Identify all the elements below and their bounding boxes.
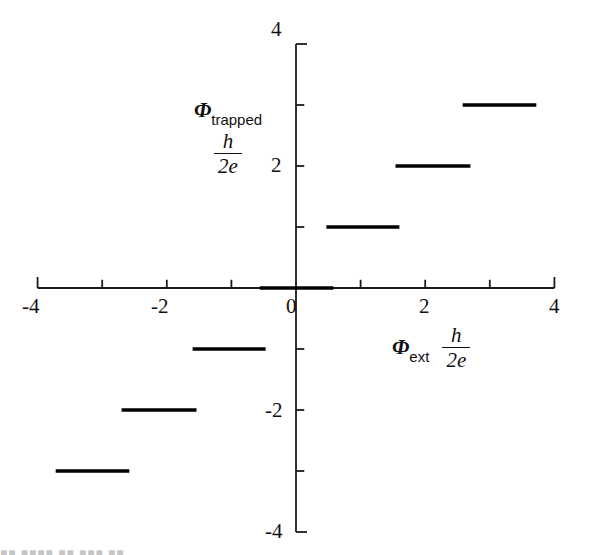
y-tick-label: 4 <box>271 19 282 40</box>
fraction-h-2e-x: h 2e <box>442 324 470 371</box>
fraction-denominator: 2e <box>214 154 242 177</box>
phi-symbol-x: Φ <box>392 334 409 359</box>
staircase-plot <box>0 0 596 555</box>
figure-canvas: -4 -2 0 2 4 4 2 -2 -4 Φtrapped h 2e Φext… <box>0 0 596 555</box>
phi-symbol-y: Φ <box>194 97 211 122</box>
fraction-numerator: h <box>442 324 470 348</box>
x-tick-label: 2 <box>419 296 430 317</box>
y-axis-label-symbol: Φtrapped <box>168 98 288 124</box>
y-axis-label-units: h 2e <box>168 130 288 177</box>
x-tick-label: 4 <box>549 296 560 317</box>
x-tick-label: -4 <box>22 296 40 317</box>
fraction-numerator: h <box>214 130 242 154</box>
x-axis-label-symbol: Φext <box>392 335 429 361</box>
y-axis-label: Φtrapped h 2e <box>168 98 288 177</box>
fraction-denominator: 2e <box>442 348 470 371</box>
page-edge-artifact: ■■ ■■■■ ■■ ■■■ ■■ <box>0 546 250 555</box>
y-tick-label: -4 <box>265 521 283 542</box>
x-tick-label: -2 <box>151 296 169 317</box>
phi-subscript-x: ext <box>409 348 429 365</box>
y-tick-label: -2 <box>265 400 283 421</box>
fraction-h-2e-y: h 2e <box>214 130 242 177</box>
x-axis-label: Φext h 2e <box>392 324 470 371</box>
x-tick-label: 0 <box>286 296 297 317</box>
phi-subscript-y: trapped <box>211 111 262 128</box>
